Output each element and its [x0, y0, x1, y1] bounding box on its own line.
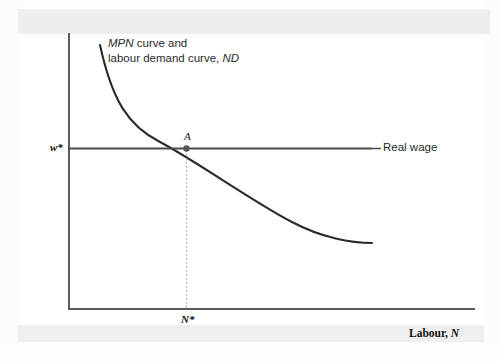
y-axis-tick-label-wstar: w* [50, 141, 63, 153]
x-axis-title-text: Labour, [409, 327, 451, 339]
annotation-line-1: MPN curve and [108, 36, 239, 51]
annotation-line1-rest: curve and [134, 37, 188, 49]
real-wage-label: Real wage [383, 141, 437, 153]
annotation-line-2: labour demand curve, ND [108, 51, 239, 66]
x-axis-title-symbol: N [451, 327, 459, 339]
scan-edge-right [484, 0, 498, 362]
y-axis-title: Marginal product of labour, MPN Real wag… [0, 0, 10, 60]
plot-area [68, 33, 475, 310]
x-axis-tick-label-nstar: N* [181, 313, 194, 325]
scan-band-footer [0, 344, 498, 362]
y-axis-line [68, 33, 70, 310]
annotation-line2-text: labour demand curve, [108, 52, 222, 64]
x-axis-title: Labour, N [409, 327, 459, 339]
scan-band-top [18, 9, 490, 34]
annotation-mpn-symbol: MPN [108, 37, 134, 49]
equilibrium-point-label: A [184, 130, 191, 142]
mpn-curve-annotation: MPN curve and labour demand curve, ND [108, 36, 239, 65]
figure-page: Marginal product of labour, MPN Real wag… [0, 0, 498, 362]
annotation-nd-symbol: ND [222, 52, 239, 64]
x-axis-line [68, 308, 475, 310]
